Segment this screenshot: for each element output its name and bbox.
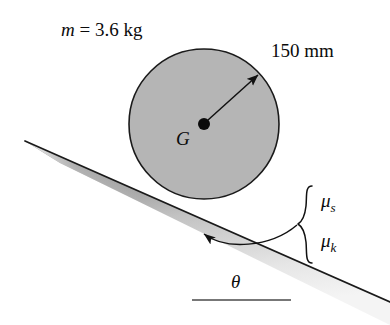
center-of-mass-dot [198, 118, 210, 130]
cylinder-on-incline-diagram: m = 3.6 kg 150 mm G θ μs μk [0, 0, 390, 325]
center-of-mass-label: G [176, 129, 190, 148]
brace-path [298, 186, 312, 263]
mass-value: = 3.6 kg [75, 19, 143, 40]
mu-kinetic-symbol: μ [321, 230, 331, 251]
mass-symbol: m [61, 19, 75, 40]
mu-static-symbol: μ [321, 190, 331, 211]
radius-label: 150 mm [271, 41, 334, 60]
mu-static-subscript: s [331, 200, 336, 215]
incline-angle-label: θ [231, 272, 240, 291]
mu-kinetic-subscript: k [331, 240, 337, 255]
static-friction-label: μs [321, 191, 336, 214]
mass-label: m = 3.6 kg [61, 20, 142, 39]
kinetic-friction-label: μk [321, 231, 336, 254]
friction-brace [298, 186, 312, 263]
